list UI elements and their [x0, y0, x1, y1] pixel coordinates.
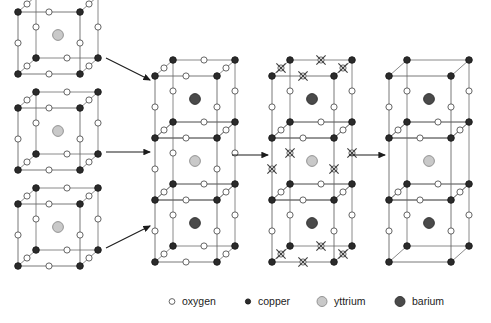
atom-copper — [404, 181, 411, 188]
atom-oxygen — [223, 65, 229, 71]
atom-copper — [466, 181, 473, 188]
atom-oxygen — [170, 150, 176, 156]
legend-marker-barium — [395, 297, 405, 307]
oxygen-vacancy-cross — [298, 257, 307, 266]
atom-oxygen — [183, 73, 189, 79]
atom-barium — [424, 94, 435, 105]
atom-yttrium — [53, 126, 64, 137]
atom-copper — [77, 263, 84, 270]
atom-copper — [77, 9, 84, 16]
oxygen-vacancy-cross — [316, 241, 325, 250]
atom-copper — [331, 197, 338, 204]
oxygen-vacancy-cross — [347, 148, 356, 157]
atom-barium — [424, 218, 435, 229]
atom-oxygen — [77, 136, 83, 142]
atom-oxygen — [386, 104, 392, 110]
atom-oxygen — [201, 119, 207, 125]
atom-oxygen — [33, 120, 39, 126]
atom-copper — [349, 243, 356, 250]
atom-barium — [307, 218, 318, 229]
atom-oxygen — [214, 228, 220, 234]
atom-oxygen — [46, 201, 52, 207]
legend-item-copper: copper — [245, 295, 290, 307]
atom-oxygen — [24, 1, 30, 7]
atom-copper — [33, 55, 40, 62]
atom-oxygen — [77, 232, 83, 238]
legend-label-barium: barium — [412, 295, 444, 307]
atom-copper — [15, 105, 22, 112]
atom-oxygen — [86, 1, 92, 7]
atom-oxygen — [86, 97, 92, 103]
atom-copper — [95, 185, 102, 192]
atom-copper — [404, 57, 411, 64]
atom-copper — [404, 119, 411, 126]
atom-oxygen — [214, 166, 220, 172]
atom-oxygen — [86, 193, 92, 199]
atom-copper — [214, 135, 221, 142]
oxygen-vacancy-cross — [316, 55, 325, 64]
atom-copper — [232, 119, 239, 126]
atom-copper — [448, 259, 455, 266]
atom-copper — [331, 135, 338, 142]
atom-yttrium — [53, 222, 64, 233]
atom-barium — [307, 94, 318, 105]
atom-yttrium — [190, 156, 201, 167]
atom-oxygen — [331, 104, 337, 110]
atom-copper — [232, 181, 239, 188]
atom-oxygen — [223, 189, 229, 195]
atom-oxygen — [95, 120, 101, 126]
atom-oxygen — [161, 251, 167, 257]
atom-copper — [287, 181, 294, 188]
atom-oxygen — [86, 63, 92, 69]
stacked-cell-oxygen-deficient — [386, 57, 473, 266]
atom-copper — [386, 197, 393, 204]
atom-oxygen — [349, 212, 355, 218]
atom-oxygen — [435, 119, 441, 125]
perovskite-cube-bottom — [15, 185, 102, 270]
atom-oxygen — [152, 228, 158, 234]
atom-oxygen — [64, 185, 70, 191]
atom-copper — [287, 119, 294, 126]
atom-copper — [466, 57, 473, 64]
atom-copper — [287, 243, 294, 250]
atom-oxygen — [15, 136, 21, 142]
atom-oxygen — [448, 228, 454, 234]
crystal-structure-diagram: oxygencopperyttriumbarium — [0, 0, 491, 323]
atom-copper — [349, 119, 356, 126]
legend-label-copper: copper — [258, 295, 291, 307]
legend-marker-copper — [245, 299, 250, 304]
atom-oxygen — [24, 159, 30, 165]
atom-oxygen — [223, 251, 229, 257]
structures-layer — [15, 0, 473, 269]
atom-oxygen — [269, 104, 275, 110]
atom-oxygen — [86, 159, 92, 165]
atom-oxygen — [340, 189, 346, 195]
atom-oxygen — [386, 228, 392, 234]
atom-oxygen — [269, 228, 275, 234]
diagram-canvas: oxygencopperyttriumbarium — [0, 0, 491, 323]
atom-copper — [152, 135, 159, 142]
atom-copper — [15, 9, 22, 16]
atom-oxygen — [395, 189, 401, 195]
atom-copper — [448, 73, 455, 80]
atom-copper — [95, 247, 102, 254]
atom-copper — [232, 243, 239, 250]
atom-oxygen — [64, 89, 70, 95]
atom-oxygen — [152, 104, 158, 110]
atom-oxygen — [33, 216, 39, 222]
atom-barium — [190, 218, 201, 229]
atom-copper — [95, 151, 102, 158]
atom-copper — [77, 105, 84, 112]
atom-oxygen — [457, 127, 463, 133]
atom-oxygen — [466, 88, 472, 94]
atom-oxygen — [161, 65, 167, 71]
atom-oxygen — [46, 105, 52, 111]
atom-copper — [15, 71, 22, 78]
atom-oxygen — [64, 151, 70, 157]
atom-oxygen — [457, 189, 463, 195]
atom-oxygen — [24, 255, 30, 261]
atom-copper — [386, 73, 393, 80]
atom-oxygen — [183, 197, 189, 203]
atom-oxygen — [349, 88, 355, 94]
atom-oxygen — [417, 135, 423, 141]
